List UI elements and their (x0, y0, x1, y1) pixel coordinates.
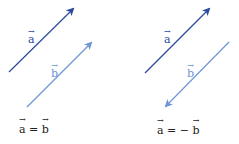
equation-right: a = − b (157, 124, 200, 137)
vector-a-right (145, 9, 209, 73)
label-a-right: a (164, 34, 171, 45)
vector-a-left (9, 9, 73, 72)
equation-left: a = b (19, 123, 49, 136)
vector-b-left (27, 43, 91, 107)
label-b-left: b (51, 68, 58, 79)
label-b-right: b (187, 68, 194, 79)
label-a-left: a (28, 34, 35, 45)
vector-b-right (166, 42, 229, 106)
